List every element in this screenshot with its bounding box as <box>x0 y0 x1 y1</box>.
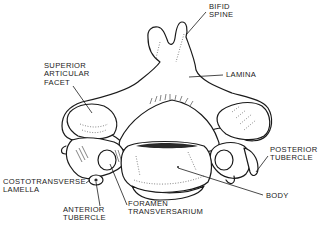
left-foramen-transversarium <box>98 150 116 170</box>
label-lamina: LAMINA <box>226 71 256 79</box>
leader-bifid-spine <box>186 12 206 35</box>
label-superior-articular-facet: SUPERIOR ARTICULAR FACET <box>44 62 90 87</box>
label-bifid-spine: BIFID SPINE <box>209 3 233 20</box>
label-posterior-tubercle: POSTERIOR TUBERCLE <box>270 146 317 163</box>
right-articular-facet <box>217 103 270 140</box>
label-foramen-transversarium: FORAMEN TRANSVERSARIUM <box>128 200 203 217</box>
label-costotransverse-lamella: COSTOTRANSVERSE LAMELLA <box>3 178 86 195</box>
label-body: BODY <box>266 192 289 200</box>
label-anterior-tubercle: ANTERIOR TUBERCLE <box>63 206 106 223</box>
left-articular-facet <box>67 104 117 139</box>
vertebral-body <box>121 142 211 193</box>
vertebra-diagram: BIFID SPINE LAMINA SUPERIOR ARTICULAR FA… <box>0 0 318 227</box>
right-foramen-transversarium <box>215 150 233 170</box>
leader-anterior-tubercle <box>96 182 100 206</box>
